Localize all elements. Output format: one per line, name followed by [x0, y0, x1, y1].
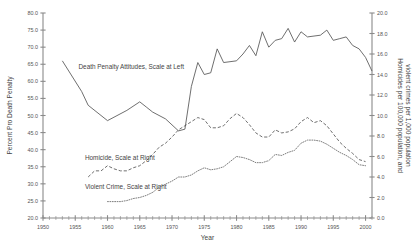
right-axis-tick-label: 14.0	[377, 72, 388, 78]
left-axis-tick-label: 45.0	[28, 130, 39, 136]
series-line-1	[88, 113, 365, 177]
series-annotation-2: Violent Crime, Scale at Right	[85, 183, 167, 191]
left-axis-tick-label: 60.0	[28, 78, 39, 84]
x-axis-tick-label: 1985	[263, 224, 275, 230]
right-axis-title-line: violent crimes per 1,000 population	[404, 64, 412, 167]
left-axis-tick-label: 35.0	[28, 164, 39, 170]
x-axis-tick-label: 1970	[166, 224, 178, 230]
right-axis-tick-label: 6.0	[377, 154, 385, 160]
x-axis-tick-label: 1980	[231, 224, 243, 230]
x-axis-tick-label: 1950	[37, 224, 49, 230]
left-axis-tick-label: 65.0	[28, 61, 39, 67]
right-axis-tick-label: 10.0	[377, 113, 388, 119]
series-line-2	[108, 140, 366, 202]
dual-axis-line-chart: 20.025.030.035.040.045.050.055.060.065.0…	[0, 0, 417, 243]
right-axis-tick-label: 8.0	[377, 133, 385, 139]
right-axis-tick-label: 12.0	[377, 92, 388, 98]
x-axis-tick-label: 1990	[295, 224, 307, 230]
right-axis-tick-label: 20.0	[377, 10, 388, 16]
x-axis-tick-label: 2000	[360, 224, 372, 230]
left-axis-tick-label: 20.0	[28, 215, 39, 221]
x-axis-tick-label: 1995	[327, 224, 339, 230]
clipped-figure-title	[40, 0, 370, 2]
x-axis-tick-label: 1960	[102, 224, 114, 230]
left-axis-tick-label: 30.0	[28, 181, 39, 187]
series-line-0	[62, 28, 372, 131]
left-axis-tick-label: 25.0	[28, 198, 39, 204]
right-axis-title-line: Homicides per 100,000 population, and	[396, 58, 404, 173]
left-axis-tick-label: 75.0	[28, 27, 39, 33]
x-axis-tick-label: 1975	[198, 224, 210, 230]
left-axis-tick-label: 70.0	[28, 44, 39, 50]
series-annotation-1: Homicide, Scale at Right	[85, 154, 155, 162]
x-axis-title: Year	[201, 234, 215, 241]
right-axis-tick-label: 0.0	[377, 215, 385, 221]
left-axis-tick-label: 80.0	[28, 10, 39, 16]
right-axis-tick-label: 4.0	[377, 174, 385, 180]
right-axis-tick-label: 2.0	[377, 195, 385, 201]
x-axis-tick-label: 1955	[69, 224, 81, 230]
left-axis-tick-label: 55.0	[28, 95, 39, 101]
left-axis-tick-label: 40.0	[28, 147, 39, 153]
left-axis-tick-label: 50.0	[28, 113, 39, 119]
chart-container: 20.025.030.035.040.045.050.055.060.065.0…	[0, 0, 417, 243]
x-axis-tick-label: 1965	[134, 224, 146, 230]
right-axis-tick-label: 18.0	[377, 31, 388, 37]
left-axis-title: Percent Pro Death Penalty	[6, 76, 14, 155]
series-annotation-0: Death Penalty Attitudes, Scale at Left	[78, 63, 184, 71]
right-axis-tick-label: 16.0	[377, 51, 388, 57]
